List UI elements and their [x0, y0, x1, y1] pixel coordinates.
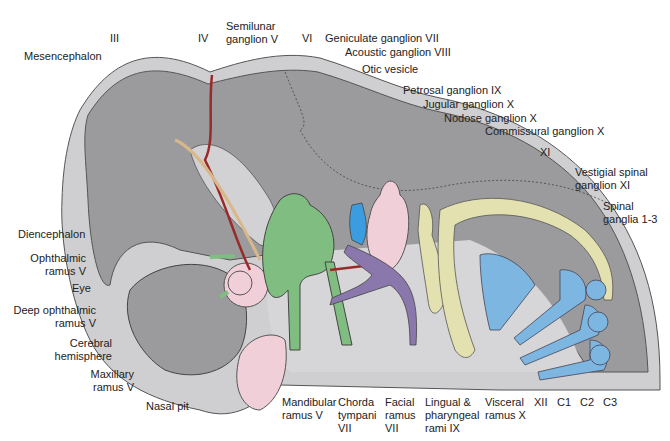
label-accessory-XI: XI — [540, 146, 550, 159]
label-maxillary-ramus: Maxillary ramus V — [80, 368, 134, 394]
eye — [224, 263, 268, 307]
label-diencephalon: Diencephalon — [18, 228, 85, 241]
label-spinal-ganglia: Spinal ganglia 1-3 — [603, 200, 657, 226]
label-commissural-ganglion: Commissural ganglion X — [485, 125, 604, 138]
acoustic-ganglion — [350, 203, 367, 245]
label-deep-ophthalmic-ramus: Deep ophthalmic ramus V — [10, 304, 96, 330]
label-trochlear-IV: IV — [198, 32, 208, 45]
label-oculomotor-III: III — [110, 32, 119, 45]
label-hypoglossal-XII: XII — [534, 396, 547, 409]
label-C1: C1 — [557, 396, 571, 409]
label-ophthalmic-ramus: Ophthalmic ramus V — [22, 252, 86, 278]
label-otic-vesicle: Otic vesicle — [362, 63, 418, 76]
ophthalmic-ramus — [210, 256, 235, 257]
label-C3: C3 — [603, 396, 617, 409]
label-nodose-ganglion: Nodose ganglion X — [444, 112, 537, 125]
label-C2: C2 — [580, 396, 594, 409]
label-eye: Eye — [72, 282, 91, 295]
label-acoustic-ganglion: Acoustic ganglion VIII — [345, 46, 451, 59]
label-vestigial-spinal-ganglion: Vestigial spinal ganglion XI — [575, 166, 648, 192]
label-jugular-ganglion: Jugular ganglion X — [423, 98, 514, 111]
label-semilunar-ganglion: Semilunar ganglion V — [226, 20, 278, 46]
label-facial-ramus: Facial ramus VII — [385, 396, 416, 435]
label-abducens-VI: VI — [302, 32, 312, 45]
label-chorda-tympani: Chorda tympani VII — [338, 396, 377, 435]
label-visceral-ramus: Visceral ramus X — [485, 396, 526, 422]
label-cerebral-hemisphere: Cerebral hemisphere — [50, 337, 112, 363]
label-lingual-pharyngeal-rami: Lingual & pharyngeal rami IX — [425, 396, 479, 435]
label-petrosal-ganglion: Petrosal ganglion IX — [403, 84, 501, 97]
label-mandibular-ramus: Mandibular ramus V — [282, 396, 336, 422]
label-nasal-pit: Nasal pit — [146, 400, 189, 413]
label-geniculate-ganglion: Geniculate ganglion VII — [325, 32, 439, 45]
label-mesencephalon: Mesencephalon — [24, 50, 102, 63]
